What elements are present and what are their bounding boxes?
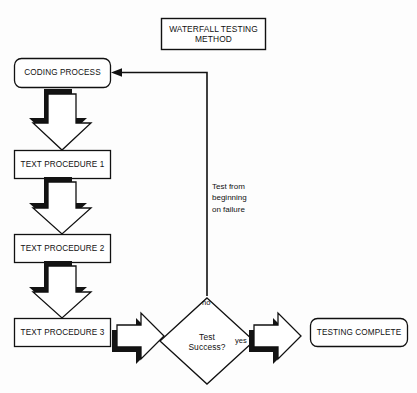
text-procedure-1-box-shape (15, 151, 111, 179)
right-block-arrow-1 (112, 313, 164, 364)
diagram-vector-layer (0, 0, 417, 393)
waterfall-testing-method-diagram: WATERFALL TESTING METHOD CODING PROCESS … (0, 0, 417, 393)
right-block-arrow-2 (249, 313, 301, 364)
down-block-arrow-2 (29, 177, 91, 234)
title-box-shape (162, 19, 266, 50)
coding-process-box-shape (15, 59, 111, 88)
down-block-arrow-3 (29, 261, 91, 318)
edge-label-yes: yes (235, 336, 247, 345)
feedback-loop-connector (111, 68, 207, 296)
testing-complete-box-shape (311, 319, 408, 347)
edge-label-no: no (202, 298, 210, 307)
text-procedure-3-box-shape (15, 319, 111, 347)
down-block-arrow-1 (29, 89, 91, 150)
feedback-annotation-text: Test from beginning on failure (212, 181, 282, 215)
text-procedure-2-box-shape (15, 235, 111, 263)
